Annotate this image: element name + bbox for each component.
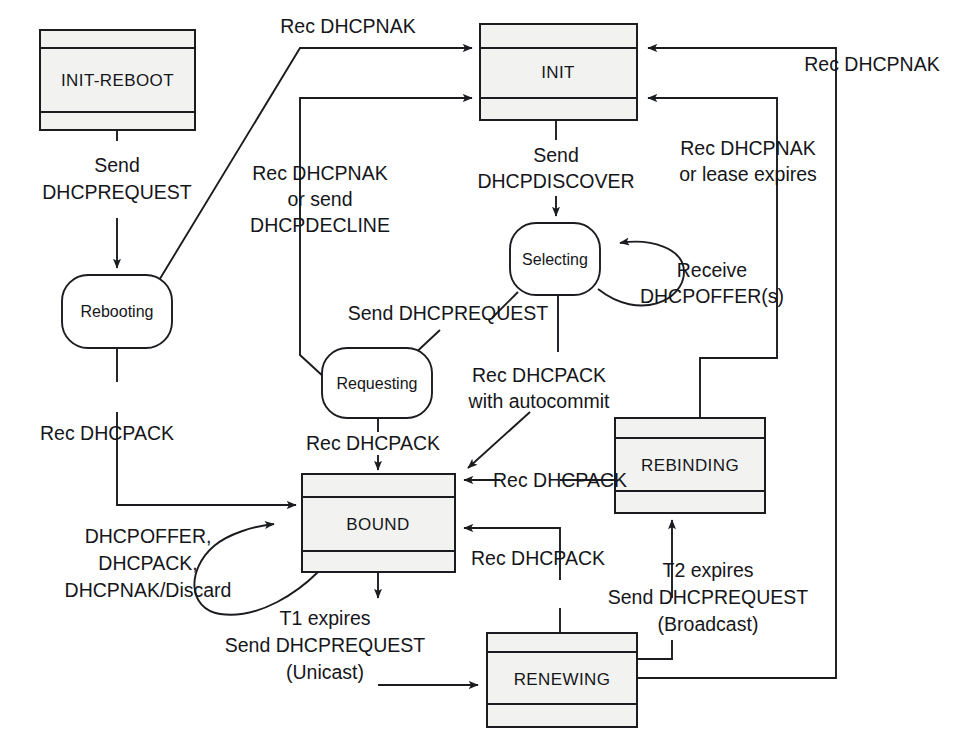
edge-label-send: Send xyxy=(94,154,140,176)
edge-label-rec-dhcpack-auto: Rec DHCPACK xyxy=(472,364,606,386)
state-init-reboot[interactable]: INIT-REBOOT xyxy=(40,30,195,130)
edge-label-dhcpdiscover: DHCPDISCOVER xyxy=(477,170,634,192)
state-label-renewing: RENEWING xyxy=(514,670,611,689)
state-label-selecting: Selecting xyxy=(522,251,588,268)
state-renewing[interactable]: RENEWING xyxy=(487,633,637,727)
edge-label-t2-expires: T2 expires xyxy=(662,559,753,581)
edge-label-rec-dhcpack-renew: Rec DHCPACK xyxy=(471,547,605,569)
edge-label-send-dhcprequest-broadcast: Send DHCPREQUEST xyxy=(608,586,809,608)
edge-label-unicast: (Unicast) xyxy=(286,661,364,683)
edge-label-rec-dhcpnak2: Rec DHCPNAK xyxy=(680,137,815,159)
edge-label-dhcpack-c: DHCPACK, xyxy=(98,552,197,574)
state-init[interactable]: INIT xyxy=(480,24,637,120)
edge-label-dhcpoffers: DHCPOFFER(s) xyxy=(640,285,784,307)
state-bound[interactable]: BOUND xyxy=(302,474,455,572)
edge-label-dhcpdecline: DHCPDECLINE xyxy=(250,214,390,236)
dhcp-state-diagram: INIT-REBOOT INIT Selecting Requesting Re… xyxy=(0,0,961,747)
edge-label-or-lease-expires: or lease expires xyxy=(679,163,817,185)
state-label-rebinding: REBINDING xyxy=(641,456,739,475)
state-label-rebooting: Rebooting xyxy=(81,303,154,320)
state-label-requesting: Requesting xyxy=(337,375,418,392)
edge-label-rec-dhcpack-rebind: Rec DHCPACK xyxy=(493,469,627,491)
edge-label-rec-dhcpnak-top: Rec DHCPNAK xyxy=(280,15,415,37)
edge-label-with-autocommit: with autocommit xyxy=(468,390,610,412)
edge-label-send2: Send xyxy=(533,144,579,166)
edge-label-rec-dhcpnak-right: Rec DHCPNAK xyxy=(804,53,939,75)
edge-label-send-dhcprequest-unicast: Send DHCPREQUEST xyxy=(225,634,426,656)
state-requesting[interactable]: Requesting xyxy=(322,348,432,418)
edge-label-dhcprequest: DHCPREQUEST xyxy=(42,181,192,203)
state-label-bound: BOUND xyxy=(346,515,409,534)
state-selecting[interactable]: Selecting xyxy=(510,223,600,295)
edge-label-dhcpnak-discard: DHCPNAK/Discard xyxy=(65,579,232,601)
edge-label-send-dhcprequest: Send DHCPREQUEST xyxy=(348,302,549,324)
state-rebooting[interactable]: Rebooting xyxy=(62,275,172,348)
edge-label-dhcpoffer-c: DHCPOFFER, xyxy=(85,525,212,547)
state-label-init-reboot: INIT-REBOOT xyxy=(61,71,174,90)
edge-label-rec-dhcpack-reboot: Rec DHCPACK xyxy=(40,422,174,444)
edge-label-broadcast: (Broadcast) xyxy=(658,613,759,635)
state-label-init: INIT xyxy=(541,63,575,82)
state-rebinding[interactable]: REBINDING xyxy=(615,418,765,513)
edge-label-rec-dhcpnak: Rec DHCPNAK xyxy=(252,162,387,184)
edge-label-t1-expires: T1 expires xyxy=(279,607,370,629)
edge-label-or-send: or send xyxy=(287,188,352,210)
edge-label-receive: Receive xyxy=(677,259,747,281)
edge-label-rec-dhcpack-req: Rec DHCPACK xyxy=(306,432,440,454)
